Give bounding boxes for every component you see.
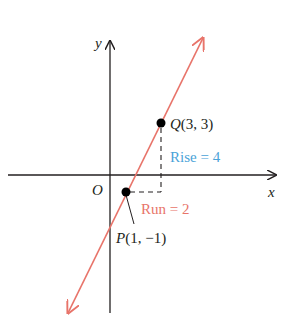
rise-annotation: Rise = 4	[170, 149, 221, 165]
origin-label: O	[92, 182, 103, 198]
run-annotation: Run = 2	[141, 201, 189, 217]
point-p-name: P	[115, 230, 125, 246]
p-leader-line	[126, 195, 134, 224]
y-axis-label: y	[93, 35, 102, 51]
point-p	[122, 188, 131, 197]
point-q-label: Q(3, 3)	[170, 116, 213, 133]
diagram-canvas: y x O Q(3, 3) P(1, −1) Rise = 4 Run = 2	[0, 0, 300, 325]
x-axis-label: x	[267, 184, 275, 200]
slope-diagram: y x O Q(3, 3) P(1, −1) Rise = 4 Run = 2	[0, 0, 300, 325]
point-q-name: Q	[170, 116, 181, 132]
point-p-coords: (1, −1)	[125, 230, 166, 247]
point-q	[157, 119, 166, 128]
point-p-label: P(1, −1)	[115, 230, 166, 247]
point-q-coords: (3, 3)	[181, 116, 214, 133]
